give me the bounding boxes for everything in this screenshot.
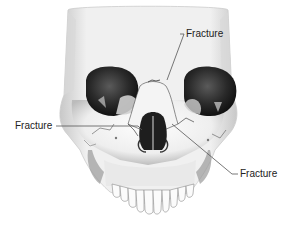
skull-drawing [0, 0, 295, 228]
label-fracture-left: Fracture [15, 121, 52, 131]
label-fracture-top: Fracture [186, 29, 223, 39]
skull-fracture-illustration: Fracture Fracture Fracture [0, 0, 295, 228]
label-fracture-right: Fracture [240, 169, 277, 179]
